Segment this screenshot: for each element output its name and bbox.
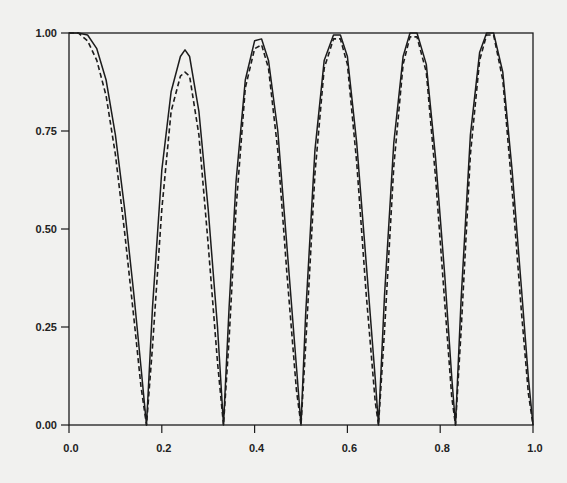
line-chart: 0.000.250.500.751.00 0.00.20.40.60.81.0 xyxy=(0,0,567,483)
y-tick-label: 0.25 xyxy=(36,321,57,333)
series-group xyxy=(69,33,533,425)
x-tick-label: 0.6 xyxy=(342,442,357,454)
x-tick-label: 0.0 xyxy=(63,442,78,454)
y-tick-label: 0.75 xyxy=(36,125,57,137)
x-tick-label: 0.8 xyxy=(435,442,450,454)
x-tick-label: 0.2 xyxy=(156,442,171,454)
y-tick-label: 0.50 xyxy=(36,223,57,235)
x-tick-label: 1.0 xyxy=(527,442,542,454)
x-axis: 0.00.20.40.60.81.0 xyxy=(63,425,542,454)
dashed-series-line xyxy=(69,33,533,425)
x-tick-label: 0.4 xyxy=(249,442,265,454)
y-tick-label: 0.00 xyxy=(36,419,57,431)
y-axis: 0.000.250.500.751.00 xyxy=(36,27,69,431)
y-tick-label: 1.00 xyxy=(36,27,57,39)
